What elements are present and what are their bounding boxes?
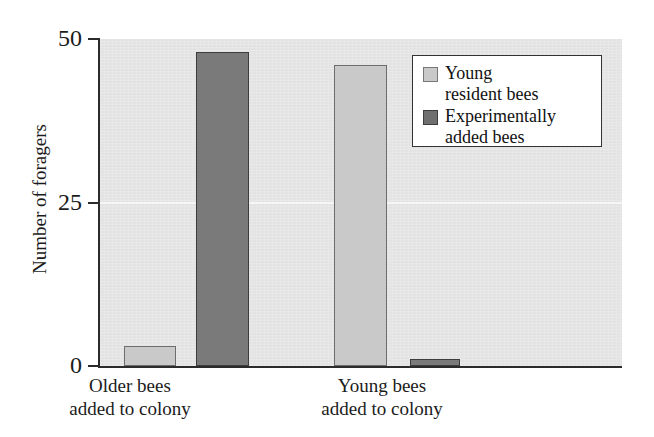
legend-label-experimentally-added-bees: Experimentally added bees xyxy=(445,106,556,148)
y-tick-0 xyxy=(88,365,100,367)
y-tick-50 xyxy=(88,38,100,40)
bar-older-young-resident xyxy=(124,346,176,366)
legend-swatch-young-resident-bees xyxy=(423,67,438,82)
legend-label-young-resident-bees-line2: resident bees xyxy=(445,84,538,104)
x-category-label-young-bees-line2: added to colony xyxy=(267,397,497,420)
legend-item-experimentally-added-bees: Experimentally added bees xyxy=(423,106,593,148)
legend-label-experimentally-added-bees-line2: added bees xyxy=(445,127,524,147)
x-category-label-older-bees-line1: Older bees xyxy=(15,374,245,397)
x-category-label-young-bees-line1: Young bees xyxy=(267,374,497,397)
legend-item-young-resident-bees: Young resident bees xyxy=(423,63,593,105)
y-tick-25 xyxy=(88,202,100,204)
legend: Young resident bees Experimentally added… xyxy=(412,55,602,147)
x-category-label-young-bees: Young bees added to colony xyxy=(267,374,497,420)
y-axis-title: Number of foragers xyxy=(29,89,51,309)
x-axis-line xyxy=(98,366,622,368)
y-tick-label-50: 50 xyxy=(30,26,82,50)
bar-older-experimentally-added xyxy=(196,52,249,366)
legend-label-experimentally-added-bees-line1: Experimentally xyxy=(445,106,556,126)
chart-figure: 0 25 50 Number of foragers Older bees ad… xyxy=(0,0,654,437)
legend-label-young-resident-bees: Young resident bees xyxy=(445,63,538,105)
legend-label-young-resident-bees-line1: Young xyxy=(445,63,492,83)
bar-young-young-resident xyxy=(334,65,387,366)
y-axis-line xyxy=(98,39,100,368)
x-category-label-older-bees: Older bees added to colony xyxy=(15,374,245,420)
x-category-label-older-bees-line2: added to colony xyxy=(15,397,245,420)
bar-young-experimentally-added xyxy=(410,359,460,366)
legend-swatch-experimentally-added-bees xyxy=(423,110,438,125)
